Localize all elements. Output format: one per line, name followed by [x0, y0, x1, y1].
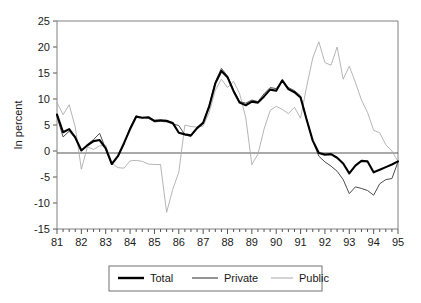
x-tick-label: 84 [124, 236, 136, 248]
x-tick-label: 93 [343, 236, 355, 248]
x-tick-label: 85 [148, 236, 160, 248]
x-axis-tick-labels: 818283848586878889909192939495 [51, 236, 404, 248]
line-chart: In percent 2520151050-5-10-15 8182838485… [0, 0, 421, 303]
x-tick-label: 95 [392, 236, 404, 248]
x-tick-label: 87 [197, 236, 209, 248]
x-tick-label: 92 [319, 236, 331, 248]
y-tick-label: -5 [40, 171, 50, 183]
y-tick-label: -15 [34, 223, 50, 235]
y-tick-label: 15 [38, 67, 50, 79]
y-tick-label: 0 [44, 145, 50, 157]
x-tick-label: 83 [100, 236, 112, 248]
x-tick-label: 88 [221, 236, 233, 248]
y-tick-label: 5 [44, 119, 50, 131]
x-tick-label: 86 [173, 236, 185, 248]
y-axis-title: In percent [12, 101, 24, 150]
legend-label-total: Total [150, 272, 173, 284]
y-tick-label: 20 [38, 41, 50, 53]
y-tick-label: 25 [38, 15, 50, 27]
legend-label-public: Public [299, 272, 329, 284]
chart-figure: In percent 2520151050-5-10-15 8182838485… [0, 0, 421, 303]
chart-background [0, 0, 421, 303]
x-tick-label: 82 [75, 236, 87, 248]
x-tick-label: 81 [51, 236, 63, 248]
y-tick-label: 10 [38, 93, 50, 105]
x-tick-label: 90 [270, 236, 282, 248]
legend-label-private: Private [224, 272, 258, 284]
x-tick-label: 94 [368, 236, 380, 248]
x-tick-label: 89 [246, 236, 258, 248]
y-tick-label: -10 [34, 197, 50, 209]
x-tick-label: 91 [294, 236, 306, 248]
